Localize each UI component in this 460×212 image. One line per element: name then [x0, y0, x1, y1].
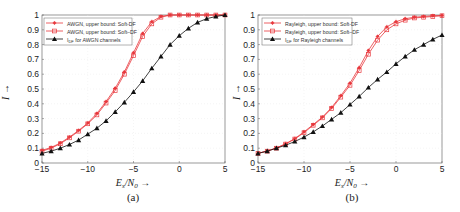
x-tick-label: −5	[345, 164, 355, 174]
legend-label-a-1: AWGN, upper bound: Soft-DF	[67, 21, 136, 27]
legend-b: Rayleigh, upper bound: Soft-DF Rayleigh,…	[262, 18, 359, 45]
x-tick-label: 5	[223, 164, 228, 174]
x-tick-label: −15	[251, 164, 266, 174]
y-tick-label: 0.1	[243, 143, 255, 153]
y-tick-label: 0.5	[27, 84, 39, 94]
y-tick-label: 0.8	[27, 40, 39, 50]
y-tick-label: 0.3	[243, 114, 255, 124]
y-tick-label: 0.1	[27, 143, 39, 153]
x-tick-label: −10	[297, 164, 312, 174]
caption-a: (a)	[127, 191, 140, 204]
y-ticks-a: 00.10.20.30.40.50.60.70.80.91	[27, 10, 44, 168]
figure: 00.10.20.30.40.50.60.70.80.91 −15−10−505…	[0, 0, 460, 212]
y-tick-label: 1	[34, 10, 39, 20]
y-tick-label: 0.9	[243, 25, 255, 35]
caption-b: (b)	[346, 191, 359, 204]
chart-panel-a: 00.10.20.30.40.50.60.70.80.91 −15−10−505…	[0, 10, 228, 204]
x-tick-label: 5	[440, 164, 445, 174]
legend-label-a-2: AWGN, upper bound: Soft–DF	[67, 29, 137, 35]
y-tick-label: 0.6	[243, 69, 255, 79]
x-tick-label: −5	[129, 164, 139, 174]
x-axis-label-a: Es/N0 →	[115, 177, 150, 190]
y-tick-label: 0.4	[243, 99, 255, 109]
y-tick-label: 0.7	[243, 54, 255, 64]
y-tick-label: 0.5	[243, 84, 255, 94]
x-tick-label: −10	[81, 164, 96, 174]
chart-panel-b: 00.10.20.30.40.50.60.70.80.91 −15−10−505…	[231, 10, 445, 204]
y-tick-label: 0.3	[27, 114, 39, 124]
x-axis-label-b: Es/N0 →	[334, 177, 369, 190]
y-ticks-b: 00.10.20.30.40.50.60.70.80.91	[243, 10, 260, 168]
y-tick-label: 0.2	[243, 128, 255, 138]
y-tick-label: 0.7	[27, 54, 39, 64]
y-tick-label: 0.4	[27, 99, 39, 109]
y-axis-label-a: I →	[0, 84, 11, 101]
y-tick-label: 0.6	[27, 69, 39, 79]
x-tick-label: 0	[394, 164, 399, 174]
y-axis-label-b: I →	[231, 84, 242, 101]
legend-label-b-2: Rayleigh, upper bound: Soft–DF	[285, 29, 359, 35]
y-tick-label: 1	[250, 10, 255, 20]
legend-a: AWGN, upper bound: Soft-DF AWGN, upper b…	[44, 18, 137, 45]
y-tick-label: 0.2	[27, 128, 39, 138]
y-tick-label: 0.9	[27, 25, 39, 35]
y-tick-label: 0.8	[243, 40, 255, 50]
x-tick-label: 0	[177, 164, 182, 174]
x-tick-label: −15	[35, 164, 50, 174]
legend-label-b-1: Rayleigh, upper bound: Soft-DF	[285, 21, 358, 27]
